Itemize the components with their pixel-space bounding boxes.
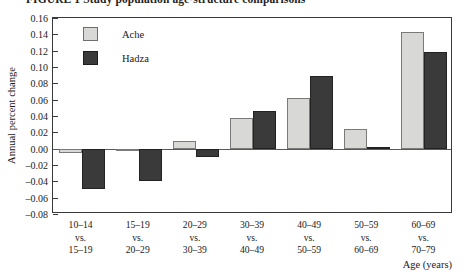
y-tick-mark [53,51,58,52]
x-axis-title: Age (years) [0,259,452,270]
legend-swatch-ache-icon [83,27,98,41]
y-tick-mark [53,214,58,215]
y-tick-label: 0.02 [31,127,49,138]
y-axis-title-text: Annual percent change [6,67,17,164]
y-tick-label: –0.08 [26,209,49,220]
x-tick-label: 30–39vs.40–49 [223,219,280,257]
x-tick-label-line: 40–49 [281,219,338,232]
bar-ache-0 [59,149,82,153]
chart-legend: Ache Hadza [83,27,149,75]
y-tick-label: 0.12 [31,45,49,56]
x-tick-label-line: 70–79 [395,244,452,257]
x-tick-label: 40–49vs.50–59 [281,219,338,257]
bar-hadza-3 [253,111,276,149]
y-tick-label: 0.00 [31,143,49,154]
zero-baseline [53,149,451,150]
legend-item-ache: Ache [83,27,149,41]
x-tick-label-line: 15–19 [109,219,166,232]
bar-ache-6 [401,32,424,149]
x-tick-label-line: 15–19 [52,244,109,257]
figure-caption-text: Study population age-structure compariso… [83,0,305,5]
bar-hadza-5 [367,147,390,149]
legend-item-hadza: Hadza [83,51,149,65]
bar-ache-1 [116,149,139,151]
y-tick-mark [53,132,58,133]
y-tick-mark [53,198,58,199]
x-tick-label: 15–19vs.20–29 [109,219,166,257]
y-tick-mark [53,181,58,182]
bar-ache-2 [173,141,196,149]
bar-ache-3 [230,118,253,149]
y-tick-label: 0.16 [31,13,49,24]
bar-hadza-1 [139,149,162,182]
y-tick-label: –0.04 [26,176,49,187]
y-tick-mark [53,34,58,35]
x-tick-label-line: vs. [166,232,223,245]
y-tick-label: 0.10 [31,62,49,73]
y-tick-label: 0.08 [31,78,49,89]
x-tick-label: 50–59vs.60–69 [338,219,395,257]
bar-hadza-0 [82,149,105,190]
x-axis-tick-labels: 10–14vs.15–1915–19vs.20–2920–29vs.30–393… [52,219,452,261]
figure-container: FIGURE 1 Study population age-structure … [0,0,467,274]
y-tick-mark [53,18,58,19]
x-axis-title-text: Age (years) [403,259,452,270]
x-tick-label-line: vs. [395,232,452,245]
x-tick-label-line: 50–59 [281,244,338,257]
x-tick-label: 10–14vs.15–19 [52,219,109,257]
x-tick-label-line: 30–39 [223,219,280,232]
x-tick-label-line: vs. [223,232,280,245]
y-tick-mark [53,165,58,166]
y-tick-mark [53,116,58,117]
x-tick-label-line: 60–69 [338,244,395,257]
figure-caption-label: FIGURE 1 [26,0,80,5]
plot-area: 0.160.140.120.100.080.060.040.020.00–0.0… [52,17,452,213]
x-tick-label-line: 60–69 [395,219,452,232]
bar-ache-4 [287,98,310,149]
x-tick-label-line: 50–59 [338,219,395,232]
figure-caption: FIGURE 1 Study population age-structure … [26,0,456,7]
bar-ache-5 [344,129,367,149]
y-tick-label: 0.04 [31,111,49,122]
legend-label-ache: Ache [122,29,144,40]
x-tick-label-line: vs. [338,232,395,245]
bar-hadza-6 [424,52,447,148]
y-tick-label: 0.14 [31,29,49,40]
y-tick-mark [53,83,58,84]
x-tick-label-line: 40–49 [223,244,280,257]
bar-hadza-4 [310,76,333,149]
y-tick-label: –0.06 [26,192,49,203]
legend-swatch-hadza-icon [83,51,98,65]
x-tick-label: 20–29vs.30–39 [166,219,223,257]
y-tick-label: 0.06 [31,94,49,105]
y-tick-label: –0.02 [26,160,49,171]
x-tick-label: 60–69vs.70–79 [395,219,452,257]
x-tick-label-line: vs. [52,232,109,245]
bar-hadza-2 [196,149,219,157]
y-axis-title: Annual percent change [3,30,19,200]
legend-label-hadza: Hadza [122,53,149,64]
y-tick-mark [53,100,58,101]
x-tick-label-line: vs. [109,232,166,245]
x-tick-label-line: 10–14 [52,219,109,232]
x-tick-label-line: vs. [281,232,338,245]
x-tick-label-line: 30–39 [166,244,223,257]
y-tick-mark [53,67,58,68]
x-tick-label-line: 20–29 [109,244,166,257]
x-tick-label-line: 20–29 [166,219,223,232]
